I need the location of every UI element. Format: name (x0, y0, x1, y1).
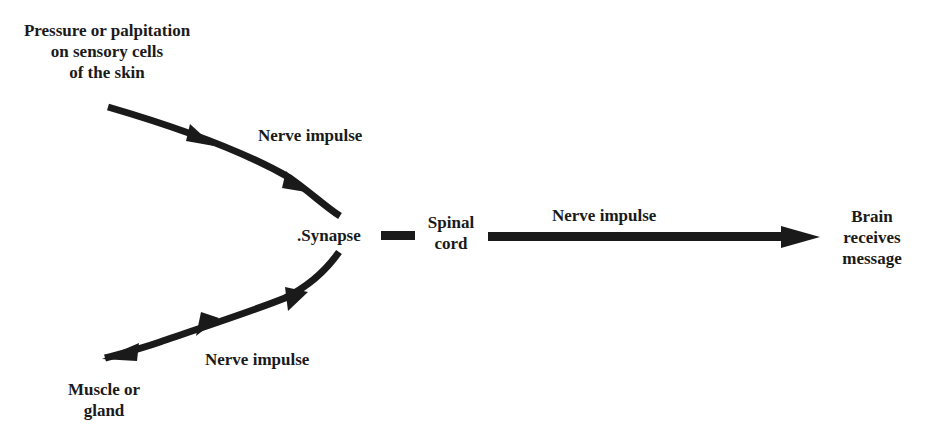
spinal-cord-label: Spinal cord (418, 212, 484, 254)
ascending-arrow (488, 226, 820, 248)
spinal-cord-line-1: Spinal (418, 212, 484, 233)
afferent-arrow (108, 107, 340, 216)
spinal-cord-line-2: cord (418, 233, 484, 254)
brain-line-3: message (830, 248, 914, 269)
afferent-impulse-label: Nerve impulse (258, 125, 362, 146)
effector-label: Muscle or gland (56, 379, 152, 421)
stimulus-line-2: on sensory cells (4, 41, 210, 62)
effector-line-2: gland (56, 400, 152, 421)
brain-label: Brain receives message (830, 206, 914, 269)
synapse-connector (381, 231, 415, 240)
brain-line-2: receives (830, 227, 914, 248)
synapse-label: .Synapse (297, 225, 361, 246)
stimulus-label: Pressure or palpitation on sensory cells… (4, 20, 210, 83)
effector-line-1: Muscle or (56, 379, 152, 400)
ascending-impulse-label: Nerve impulse (552, 205, 656, 226)
brain-line-1: Brain (830, 206, 914, 227)
stimulus-line-3: of the skin (4, 62, 210, 83)
efferent-arrow (102, 252, 339, 361)
efferent-impulse-label: Nerve impulse (205, 349, 309, 370)
stimulus-line-1: Pressure or palpitation (4, 20, 210, 41)
